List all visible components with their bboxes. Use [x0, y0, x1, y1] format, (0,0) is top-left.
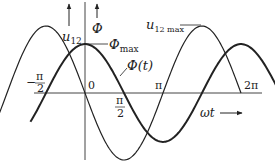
tick-zero: 0: [88, 79, 95, 92]
phi-t-leader: [120, 68, 127, 76]
tick-two-pi: 2π: [244, 79, 258, 92]
tick-half-pi-num: π: [116, 94, 123, 107]
tick-pi: π: [155, 79, 162, 92]
phi-max-label: Φmax: [109, 37, 139, 54]
tick-neg-half-pi-den: 2: [37, 82, 44, 95]
u12max-label: u12 max: [146, 17, 184, 34]
tick-half-pi-den: 2: [117, 107, 124, 120]
u12-axis-label: u12: [62, 29, 82, 46]
waveform-diagram: u12 Φ Φmax Φ(t) u12 max ωt − π 2 0 π 2 π…: [0, 0, 275, 167]
phi-axis-label: Φ: [92, 21, 103, 36]
tick-neg-sign: −: [26, 75, 36, 89]
x-axis-label: ωt: [200, 106, 215, 120]
phi-t-label: Φ(t): [127, 58, 153, 73]
